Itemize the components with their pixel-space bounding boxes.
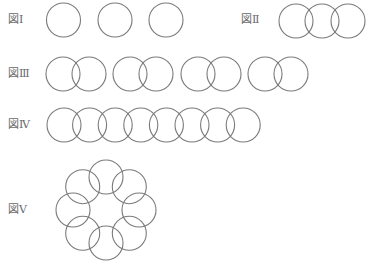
circle (112, 216, 146, 250)
circle (201, 108, 235, 142)
circle (305, 4, 339, 38)
circle (331, 4, 365, 38)
circle (207, 57, 241, 91)
circle (181, 57, 215, 91)
circle (274, 57, 308, 91)
circle (73, 108, 107, 142)
circle (248, 57, 282, 91)
circle (66, 216, 100, 250)
circle (46, 57, 80, 91)
circle (47, 3, 81, 37)
circle (113, 57, 147, 91)
figure-3 (46, 57, 308, 91)
circle (149, 108, 183, 142)
figures-canvas (0, 0, 368, 277)
circle (66, 170, 100, 204)
circle (124, 108, 158, 142)
circle (149, 3, 183, 37)
circle (112, 170, 146, 204)
figure-4 (47, 108, 260, 142)
circle (89, 160, 123, 194)
circle (122, 193, 156, 227)
circle (89, 226, 123, 260)
circle (226, 108, 260, 142)
circle (139, 57, 173, 91)
figure-1 (47, 3, 184, 37)
circle (98, 108, 132, 142)
circle (47, 108, 81, 142)
figure-5 (56, 160, 156, 260)
circle (72, 57, 106, 91)
circle (98, 3, 132, 37)
circle (279, 4, 313, 38)
figure-2 (279, 4, 365, 38)
circle (175, 108, 209, 142)
circle (56, 193, 90, 227)
